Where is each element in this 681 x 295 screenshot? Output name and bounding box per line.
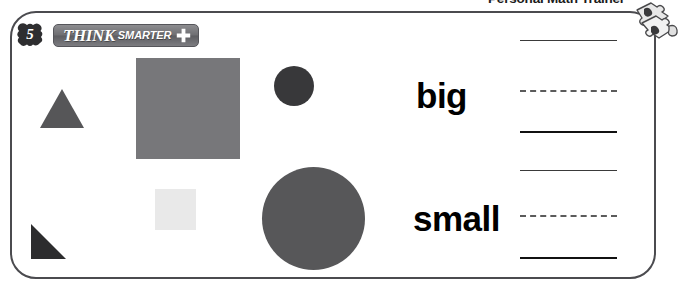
puzzle-pieces-icon[interactable]: [631, 0, 681, 42]
shape-circle-small[interactable]: [274, 66, 314, 106]
shape-square-small[interactable]: [155, 189, 196, 230]
answer-line-top-dashed-1[interactable]: [520, 90, 617, 92]
plus-icon: [176, 28, 191, 43]
lesson-number: 5: [14, 22, 46, 48]
answer-line-bottom-solid-2[interactable]: [520, 257, 617, 259]
personal-math-trainer-banner: Personal Math Trainer: [466, 0, 647, 9]
think-smarter-header: 5 THINK SMARTER: [14, 22, 199, 48]
answer-line-bottom-solid-1[interactable]: [520, 170, 617, 171]
shape-triangle-right[interactable]: [31, 224, 66, 259]
shape-square-large[interactable]: [136, 58, 240, 159]
label-big: big: [416, 76, 467, 116]
think-smarter-pill: THINK SMARTER: [53, 24, 199, 47]
brand-think-text: THINK: [63, 27, 115, 44]
starburst-badge-icon: 5: [14, 22, 46, 48]
personal-math-trainer-title: Personal Math Trainer: [466, 0, 647, 6]
label-small: small: [413, 199, 500, 239]
answer-line-top-solid-1[interactable]: [520, 40, 617, 41]
answer-line-top-solid-2[interactable]: [520, 131, 617, 133]
answer-line-bottom-dashed-1[interactable]: [520, 215, 617, 217]
worksheet-page: Personal Math Trainer 5 T: [0, 0, 681, 295]
shape-circle-large[interactable]: [262, 167, 365, 270]
shape-triangle-medium[interactable]: [40, 89, 84, 128]
brand-smarter-text: SMARTER: [118, 27, 172, 44]
